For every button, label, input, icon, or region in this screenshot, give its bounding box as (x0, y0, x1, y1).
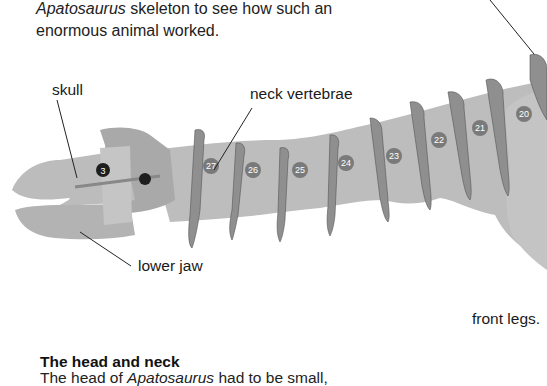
vertebra-badge-20: 20 (519, 109, 529, 119)
vertebra-badge-21: 21 (475, 123, 485, 133)
label-skull: skull (52, 81, 83, 99)
skeleton-illustration: 3 27 26 25 24 23 22 21 20 (0, 0, 547, 386)
section-species-name: Apatosaurus (127, 369, 214, 386)
label-neck-vertebrae: neck vertebrae (250, 85, 353, 103)
label-front-legs: front legs. (472, 310, 540, 328)
section-text-suffix: had to be small, (214, 369, 328, 386)
vertebra-badge-24: 24 (341, 158, 351, 168)
section-text-prefix: The head of (40, 369, 127, 386)
label-lower-jaw: lower jaw (138, 257, 203, 275)
vertebra-badge-25: 25 (295, 165, 305, 175)
vertebra-badge-23: 23 (389, 151, 399, 161)
vertebra-badge-26: 26 (248, 165, 258, 175)
section-body-text: The head of Apatosaurus had to be small, (40, 369, 328, 386)
skull: 3 (12, 128, 175, 240)
vertebra-badge-22: 22 (434, 135, 444, 145)
skull-badge: 3 (100, 166, 105, 176)
